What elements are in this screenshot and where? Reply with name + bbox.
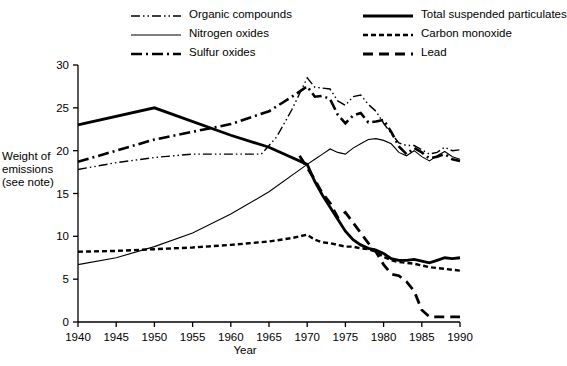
series-line-sulfur-oxides <box>78 86 460 161</box>
y-tick-label: 0 <box>63 316 69 328</box>
x-tick-label: 1940 <box>65 331 91 343</box>
x-tick-label: 1950 <box>142 331 168 343</box>
y-tick-label: 25 <box>56 102 69 114</box>
x-tick-label: 1970 <box>294 331 320 343</box>
y-tick-label: 15 <box>56 188 69 200</box>
series-line-lead <box>300 156 460 317</box>
axes-layer <box>73 65 460 327</box>
series-line-organic-compounds <box>78 78 460 170</box>
y-tick-label: 10 <box>56 230 69 242</box>
x-tick-label: 1960 <box>218 331 244 343</box>
x-tick-label: 1990 <box>447 331 473 343</box>
y-tick-label: 30 <box>56 59 69 71</box>
x-tick-label: 1955 <box>180 331 206 343</box>
x-tick-label: 1975 <box>333 331 359 343</box>
x-tick-label: 1965 <box>256 331 282 343</box>
series-line-nitrogen-oxides <box>78 139 460 265</box>
y-tick-label: 20 <box>56 145 69 157</box>
y-tick-label: 5 <box>63 273 69 285</box>
tick-label-layer: 0510152025301940194519501955196019651970… <box>56 59 473 343</box>
x-tick-label: 1980 <box>371 331 397 343</box>
x-tick-label: 1945 <box>103 331 129 343</box>
series-line-total-suspended-particulates <box>78 108 460 263</box>
x-tick-label: 1985 <box>409 331 435 343</box>
series-layer <box>78 78 460 317</box>
